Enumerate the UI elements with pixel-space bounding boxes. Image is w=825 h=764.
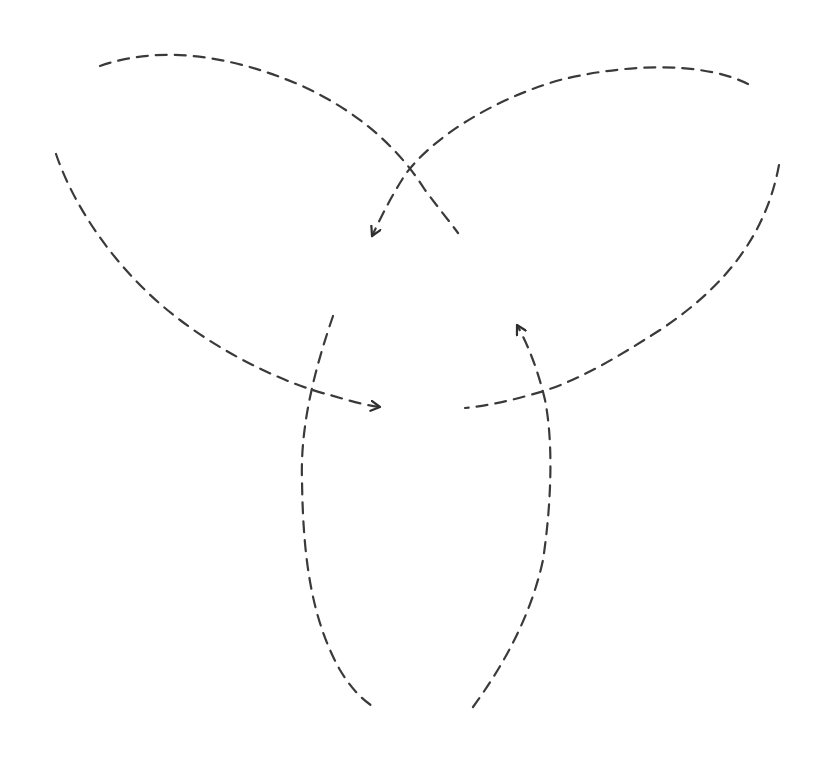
strand-bottom-left-loop [302,316,375,708]
strand-top-left-arc [100,55,458,233]
knot-diagram-canvas [0,0,825,764]
strand-bottom-right-loop [473,325,550,707]
strand-left-lower-arc [56,154,380,407]
knot-diagram [0,0,825,764]
strand-top-right-arc [372,67,748,236]
strand-right-lower-arc [465,165,779,408]
